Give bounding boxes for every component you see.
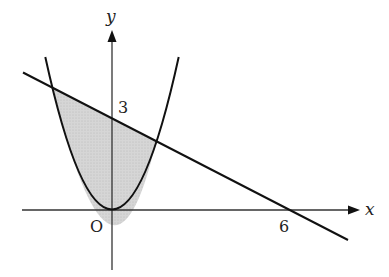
y-axis-arrow-icon [108,30,117,42]
x-intercept-label: 6 [279,217,289,236]
y-axis-label: y [105,6,116,26]
shaded-region [53,89,156,225]
origin-label: O [90,217,103,236]
y-intercept-label: 3 [118,98,128,117]
x-axis-label: x [365,199,375,219]
x-axis-arrow-icon [348,206,360,215]
graph-figure: y x O 3 6 [0,0,389,277]
